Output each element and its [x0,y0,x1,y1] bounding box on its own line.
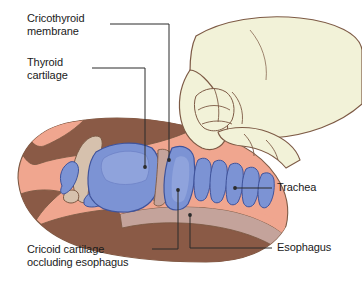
leader-dot-esophagus [188,213,192,217]
label-cricothyroid-membrane: Cricothyroid membrane [27,12,85,37]
label-esophagus: Esophagus [277,241,331,254]
leader-dot-cricothyroid [167,158,171,162]
leader-dot-cricoid [176,188,180,192]
leader-dot-thyroid [143,165,147,169]
index-finger [194,89,234,131]
label-cricoid-cartilage: Cricoid cartilage occluding esophagus [27,243,128,268]
label-trachea: Trachea [277,181,316,194]
leader-dot-trachea [233,186,237,190]
label-thyroid-cartilage: Thyroid cartilage [27,56,68,81]
operator-hand [179,17,362,168]
thyroid-cartilage-highlight [101,151,149,184]
